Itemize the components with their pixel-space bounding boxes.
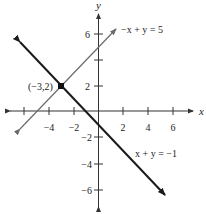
coordinate-plane-chart: −4 −2 2 4 6 x 6 2 −2 −4 −6 y −x + y = 5 …	[0, 0, 206, 214]
y-tick-label: 6	[85, 29, 90, 40]
x-axis-label: x	[198, 105, 204, 117]
line-neg-x-plus-y-eq-5	[20, 29, 116, 129]
x-tick-label: −4	[44, 122, 55, 133]
intersection-point-label: (−3,2)	[28, 81, 53, 93]
x-tick-label: 2	[121, 122, 126, 133]
line-x-plus-y-eq-neg-1	[20, 42, 165, 195]
x-tick-label: 4	[146, 122, 151, 133]
y-tick-label: −2	[81, 132, 92, 143]
y-axis: 6 2 −2 −4 −6 y	[81, 0, 103, 207]
equation-label-bottom: x + y = −1	[135, 148, 177, 159]
y-tick-label: 2	[85, 81, 90, 92]
y-tick-label: −6	[81, 185, 92, 196]
y-axis-label: y	[95, 0, 101, 11]
x-tick-label: 6	[171, 122, 176, 133]
intersection-point-marker	[58, 83, 64, 89]
y-tick-label: −4	[81, 159, 92, 170]
equation-label-top: −x + y = 5	[121, 24, 163, 35]
x-tick-label: −2	[69, 122, 80, 133]
